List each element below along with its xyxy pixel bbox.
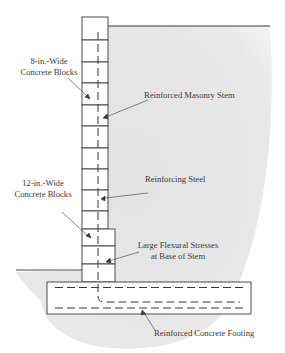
label-12in-blocks-line2: Concrete Blocks <box>14 189 72 199</box>
retaining-wall-diagram: 8-in.-Wide Concrete Blocks Reinforced Ma… <box>0 0 285 353</box>
label-8in-blocks-line2: Concrete Blocks <box>20 67 78 77</box>
label-flexural-line2: at Base of Stem <box>151 251 205 261</box>
label-masonry-stem: Reinforced Masonry Stem <box>144 90 235 100</box>
label-footing: Reinforced Concrete Footing <box>154 328 255 338</box>
label-reinforcing-steel: Reinforcing Steel <box>145 174 206 184</box>
label-flexural-line1: Large Flexural Stresses <box>138 240 219 250</box>
label-12in-blocks-line1: 12-in.-Wide <box>22 178 64 188</box>
label-8in-blocks-line1: 8-in.-Wide <box>30 56 67 66</box>
concrete-footing <box>47 282 251 314</box>
